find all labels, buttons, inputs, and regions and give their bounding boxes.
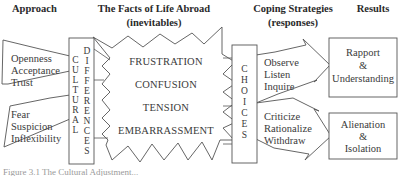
header-facts: The Facts of Life Abroad (98, 3, 211, 14)
svg-text:C: C (241, 108, 247, 118)
cultural-column-1: C U L T U R A L (72, 55, 79, 135)
svg-text:I: I (85, 56, 88, 66)
svg-text:T: T (73, 85, 79, 95)
svg-text:H: H (241, 75, 248, 85)
svg-text:&: & (359, 60, 367, 71)
svg-text:EMBARRASSMENT: EMBARRASSMENT (118, 125, 214, 136)
svg-text:C: C (72, 55, 78, 65)
facts-starburst (93, 27, 236, 162)
svg-text:F: F (84, 66, 89, 76)
svg-text:Understanding: Understanding (332, 73, 395, 84)
svg-text:Trust: Trust (11, 77, 33, 88)
svg-text:TENSION: TENSION (143, 102, 190, 113)
svg-text:D: D (84, 46, 91, 56)
svg-text:Isolation: Isolation (345, 143, 382, 154)
svg-text:FRUSTRATION: FRUSTRATION (129, 56, 203, 67)
svg-text:L: L (73, 125, 79, 135)
svg-text:I: I (243, 97, 246, 107)
svg-text:S: S (242, 130, 247, 140)
header-approach: Approach (12, 3, 57, 14)
svg-text:S: S (84, 146, 89, 156)
svg-text:C: C (84, 126, 90, 136)
svg-text:C: C (241, 64, 247, 74)
svg-text:L: L (73, 75, 79, 85)
svg-text:Criticize: Criticize (264, 111, 300, 122)
svg-text:R: R (72, 105, 79, 115)
svg-text:O: O (241, 86, 248, 96)
svg-text:CONFUSION: CONFUSION (135, 79, 197, 90)
svg-text:F: F (84, 76, 89, 86)
svg-text:A: A (72, 115, 79, 125)
svg-text:U: U (72, 95, 79, 105)
svg-text:&: & (359, 131, 367, 142)
svg-text:E: E (84, 86, 90, 96)
svg-text:Alienation: Alienation (341, 119, 386, 130)
header-coping-sub: (responses) (268, 17, 318, 29)
svg-text:Rapport: Rapport (346, 47, 380, 58)
svg-text:E: E (84, 106, 90, 116)
svg-text:Openness: Openness (11, 53, 52, 64)
svg-text:N: N (84, 116, 91, 126)
header-coping: Coping Strategies (253, 3, 333, 14)
svg-text:R: R (84, 96, 91, 106)
svg-text:Observe: Observe (264, 57, 299, 68)
svg-text:E: E (242, 119, 248, 129)
cultural-adjustment-diagram: Approach The Facts of Life Abroad (inevi… (0, 0, 400, 176)
svg-text:Inflexibility: Inflexibility (11, 133, 62, 144)
svg-text:Listen: Listen (264, 69, 291, 80)
svg-text:E: E (84, 136, 90, 146)
svg-text:Rationalize: Rationalize (264, 123, 312, 134)
svg-text:Withdraw: Withdraw (264, 135, 306, 146)
header-facts-sub: (inevitables) (127, 17, 182, 29)
svg-text:Acceptance: Acceptance (11, 65, 60, 76)
header-results: Results (357, 3, 390, 14)
svg-text:Suspicion: Suspicion (11, 121, 53, 132)
figure-caption: Figure 3.1 The Cultural Adjustment... (3, 167, 138, 176)
svg-text:Fear: Fear (11, 109, 30, 120)
svg-text:Inquire: Inquire (264, 81, 295, 92)
svg-text:U: U (72, 65, 79, 75)
